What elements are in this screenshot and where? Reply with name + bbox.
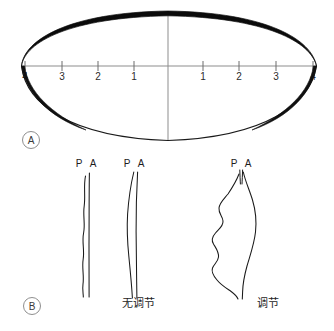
tick-label-left-3: 3 (59, 71, 65, 82)
panel-a-letter-badge: A (23, 132, 40, 149)
panel-b-letter-text: B (29, 301, 36, 312)
trace1-label-a: A (90, 158, 97, 169)
figure-root: 4 3 2 1 1 2 3 4 A (0, 0, 334, 331)
trace-narrow-left: P A (76, 158, 97, 297)
trace3-posterior-line (212, 174, 239, 299)
trace2-anterior-line (136, 172, 138, 298)
trace3-anterior-line (242, 172, 256, 299)
trace3-label-p: P (231, 158, 238, 169)
trace1-label-p: P (76, 158, 83, 169)
panel-a-letter-text: A (28, 135, 35, 146)
trace2-label-a: A (138, 158, 145, 169)
tick-label-right-2: 2 (236, 71, 242, 82)
trace1-posterior-line (83, 176, 86, 297)
trace2-posterior-line (127, 172, 134, 298)
lens-right-flank-thickening (252, 66, 317, 130)
tick-label-left-1: 1 (131, 71, 137, 82)
lens-left-flank-thickening (22, 66, 87, 130)
trace2-caption: 无调节 (122, 297, 155, 309)
trace2-label-p: P (124, 158, 131, 169)
trace-no-accommodation: P A 无调节 (122, 158, 155, 309)
tick-label-left-2: 2 (95, 71, 101, 82)
trace3-caption: 调节 (257, 297, 279, 309)
panel-b: P A P A 无调节 P (24, 158, 280, 315)
lens-anterior-curve (22, 11, 317, 66)
tick-label-right-3: 3 (273, 71, 279, 82)
panel-b-letter-badge: B (24, 298, 41, 315)
trace-accommodation: P A 调节 (212, 158, 279, 309)
trace3-neck-left (240, 170, 241, 184)
trace3-label-a: A (245, 158, 252, 169)
panel-a: 4 3 2 1 1 2 3 4 A (22, 11, 317, 149)
tick-label-right-1: 1 (200, 71, 206, 82)
figure-canvas: 4 3 2 1 1 2 3 4 A (0, 0, 334, 331)
trace3-neck-right (242, 170, 243, 184)
